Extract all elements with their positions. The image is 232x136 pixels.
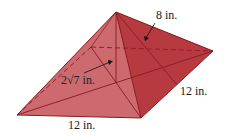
- label-right-base-edge: 12 in.: [180, 85, 207, 97]
- label-slant-height: 8 in.: [156, 9, 177, 21]
- label-front-base-edge: 12 in.: [68, 119, 95, 131]
- pyramid-figure: [0, 0, 232, 136]
- label-height: 2√7 in.: [61, 74, 95, 86]
- pyramid-diagram: 8 in. 2√7 in. 12 in. 12 in.: [0, 0, 232, 136]
